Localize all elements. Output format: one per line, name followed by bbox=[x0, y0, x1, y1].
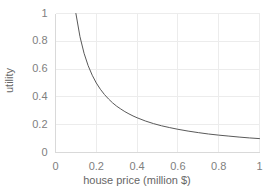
x-tick-label: 0.2 bbox=[76, 161, 116, 172]
x-tick-label: 0 bbox=[36, 161, 76, 172]
y-tick-label: 0.8 bbox=[8, 35, 48, 46]
data-series-line bbox=[76, 14, 260, 139]
y-tick-label: 0.2 bbox=[8, 119, 48, 130]
chart-container: 00.20.40.60.81 00.20.40.60.81 house pric… bbox=[0, 0, 274, 193]
gridlines bbox=[56, 14, 260, 153]
y-tick-label: 0 bbox=[8, 147, 48, 158]
x-axis-title: house price (million $) bbox=[0, 175, 274, 186]
axis-lines bbox=[56, 14, 260, 153]
x-tick-label: 0.8 bbox=[199, 161, 239, 172]
y-tick-label: 1 bbox=[8, 8, 48, 19]
y-axis-title: utility bbox=[4, 59, 15, 103]
x-tick-label: 1 bbox=[240, 161, 275, 172]
x-tick-label: 0.4 bbox=[117, 161, 157, 172]
x-tick-label: 0.6 bbox=[158, 161, 198, 172]
